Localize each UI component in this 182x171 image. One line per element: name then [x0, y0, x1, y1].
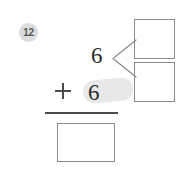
math-worksheet-problem: 12 6 6 [0, 0, 182, 171]
answer-box-sum[interactable] [57, 123, 115, 162]
plus-operator-icon [55, 83, 71, 99]
problem-number-badge: 12 [19, 23, 38, 42]
answer-box-part-b[interactable] [134, 62, 175, 102]
decomposition-bracket-icon [110, 38, 138, 80]
answer-box-part-a[interactable] [134, 19, 175, 59]
addend-bottom-digit: 6 [88, 81, 100, 104]
addend-top-digit: 6 [91, 44, 103, 67]
sum-rule-line [45, 112, 118, 114]
